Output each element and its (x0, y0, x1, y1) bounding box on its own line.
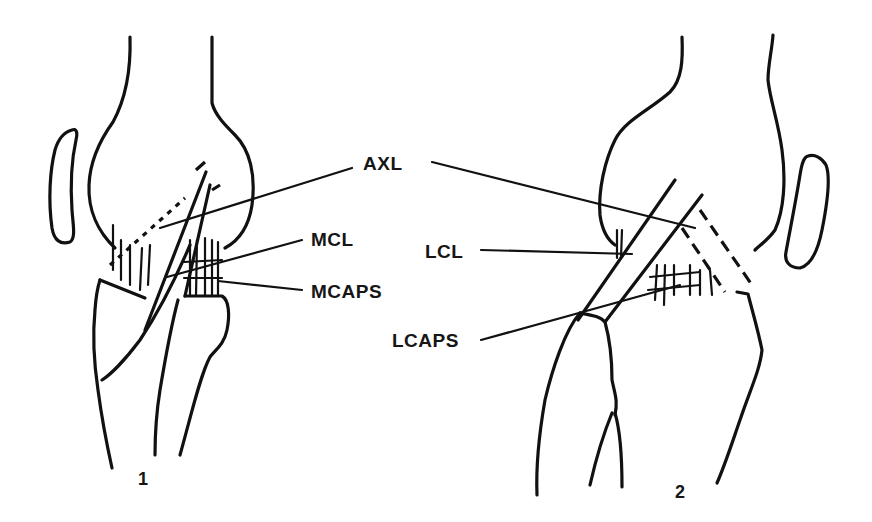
tibia-2-left (537, 313, 580, 495)
tibia-1-plateau-top (100, 280, 145, 298)
lcl-leader (481, 250, 632, 254)
axl-dashed-2b (700, 210, 752, 285)
fibula-line (155, 300, 178, 455)
mcaps-leader (218, 281, 302, 290)
label-lcaps: LCAPS (392, 331, 459, 350)
label-axl: AXL (363, 154, 403, 173)
femur-2-outline-right (755, 35, 784, 250)
figure-number-1: 1 (138, 470, 148, 488)
tibia-2-right (717, 292, 762, 483)
femur-1-outline (89, 37, 130, 248)
axl-leader-1 (160, 168, 352, 228)
axl-dashed-1b (196, 162, 205, 170)
axl-dashed-2a (682, 228, 725, 292)
label-mcl: MCL (311, 230, 354, 249)
fibula-head (580, 313, 616, 415)
knee-ligament-diagram: AXL MCL MCAPS LCL LCAPS 1 2 (0, 0, 872, 522)
label-lcl: LCL (425, 242, 463, 261)
fibula-shaft-b (615, 413, 622, 487)
tibia-inner-line (102, 245, 190, 380)
figure-2-drawing (432, 35, 828, 495)
femur-1-outline-right (212, 37, 253, 248)
figure-number-2: 2 (675, 483, 685, 501)
figure-1-drawing (50, 37, 352, 468)
fibula-shaft-a (590, 413, 612, 485)
patella-2 (786, 155, 828, 268)
patella-1 (50, 129, 77, 242)
axl-dashed-1c (212, 185, 220, 190)
lcaps-leader (481, 285, 680, 340)
mcl-leader (167, 240, 302, 277)
mcaps-hatching (113, 225, 222, 296)
tibia-1-right (180, 296, 229, 455)
label-mcaps: MCAPS (311, 282, 382, 301)
axl-leader-2 (432, 162, 695, 228)
